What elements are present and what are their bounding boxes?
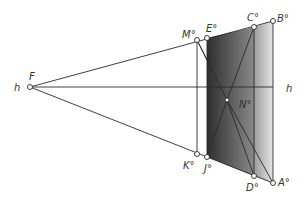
label-a: A° xyxy=(277,177,290,188)
point-f xyxy=(28,85,33,90)
point-d xyxy=(252,174,257,179)
label-c: C° xyxy=(247,12,259,23)
label-n: N° xyxy=(239,99,251,110)
label-b: B° xyxy=(277,13,289,24)
line-mj xyxy=(197,40,207,60)
point-k xyxy=(195,152,200,157)
point-a xyxy=(271,181,276,186)
perspective-diagram: h h F M° E° C° B° N° K° J° D° A° xyxy=(0,0,305,205)
light-face xyxy=(254,21,273,183)
point-c xyxy=(252,25,257,30)
horizon-label-left: h xyxy=(14,82,20,93)
label-k: K° xyxy=(183,160,195,171)
point-e xyxy=(205,36,210,41)
label-f: F xyxy=(29,71,35,82)
label-d: D° xyxy=(246,182,259,193)
point-j xyxy=(205,155,210,160)
point-n xyxy=(225,98,229,102)
horizon-label-right: h xyxy=(286,83,292,94)
label-e: E° xyxy=(206,23,217,34)
label-m: M° xyxy=(182,29,196,40)
point-b xyxy=(271,19,276,24)
label-j: J° xyxy=(202,163,212,174)
